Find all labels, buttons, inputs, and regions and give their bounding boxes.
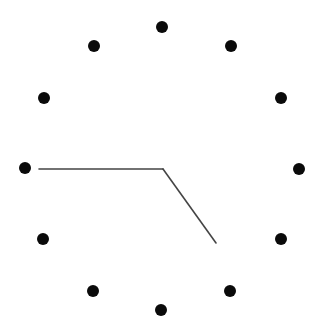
clock-hands — [39, 169, 216, 243]
hour-dot-5 — [224, 285, 236, 297]
hour-dot-12 — [156, 21, 168, 33]
hour-dot-11 — [88, 40, 100, 52]
hour-dot-2 — [275, 92, 287, 104]
hour-dot-4 — [275, 233, 287, 245]
hour-dot-3 — [293, 163, 305, 175]
hour-hand — [163, 169, 216, 243]
hour-dot-1 — [225, 40, 237, 52]
hour-dot-10 — [38, 92, 50, 104]
clock-face — [0, 0, 315, 327]
hour-dot-8 — [37, 233, 49, 245]
hour-dot-9 — [19, 162, 31, 174]
hour-dot-6 — [155, 304, 167, 316]
hour-dot-7 — [87, 285, 99, 297]
